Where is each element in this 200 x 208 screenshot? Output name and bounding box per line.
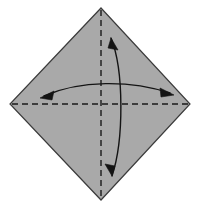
origami-diagram-canvas: Origami fold diagram Gray square sheet r…	[0, 0, 200, 208]
origami-diagram-figure: Origami fold diagram Gray square sheet r…	[0, 0, 200, 208]
